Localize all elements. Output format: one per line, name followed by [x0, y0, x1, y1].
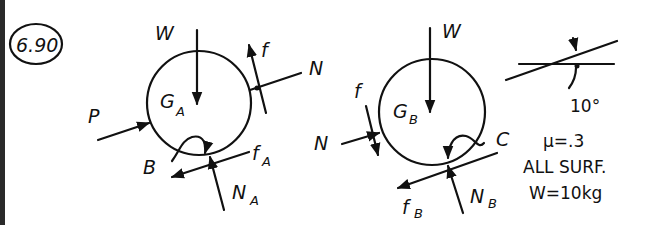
body-a-ground-normal-label: N: [232, 181, 246, 203]
body-b-center-sub: B: [409, 112, 418, 127]
weight-note: W=10kg: [529, 183, 602, 203]
body-a-ground-friction-sub: A: [261, 154, 271, 169]
diagram-canvas: 6.90 W G A P N f f A: [0, 0, 664, 225]
inclined-line: [506, 41, 617, 80]
body-a-ground-normal-sub: A: [249, 193, 259, 208]
body-b-contact-normal-label: N: [314, 132, 328, 154]
body-a-ground-friction-arrow: [172, 152, 249, 177]
body-b-moment-point-label: C: [496, 128, 510, 150]
friction-coefficient: μ=.3: [543, 131, 584, 151]
body-a-contact-normal-label: N: [309, 57, 323, 79]
body-b-ground-normal-label: N: [470, 185, 484, 207]
push-arrow-p: [98, 123, 149, 140]
body-b-center-label: G: [393, 100, 408, 122]
body-b-ground-normal-arrow: [448, 166, 463, 213]
problem-number-badge: 6.90: [10, 24, 62, 64]
body-a-ground-normal-arrow: [210, 157, 224, 210]
angle-arrow-top: [573, 38, 576, 50]
angle-arc-bottom: [569, 68, 576, 88]
angle-value: 10°: [570, 96, 600, 116]
body-b-ground-normal-sub: B: [488, 196, 497, 211]
body-a-moment-arrow: [172, 137, 206, 161]
body-a-center-label: G: [160, 90, 175, 112]
body-a-center-sub: A: [175, 104, 185, 119]
body-b-contact-friction-arrow: [366, 106, 378, 155]
problem-notes: 10° μ=.3 ALL SURF. W=10kg: [523, 96, 606, 203]
body-a-ground-friction-label: f: [252, 142, 262, 164]
body-b-ground-friction-label: f: [402, 196, 412, 218]
body-b-ground-friction-sub: B: [414, 206, 423, 221]
problem-number: 6.90: [16, 34, 58, 56]
body-a: W G A P N f f A N A B: [88, 22, 323, 210]
push-label-p: P: [88, 105, 100, 127]
angle-sketch: [506, 38, 617, 88]
free-body-diagram: 6.90 W G A P N f f A: [0, 0, 664, 225]
body-a-contact-friction-label: f: [261, 39, 271, 61]
body-b: W G B N f f B N B C: [314, 20, 510, 221]
body-b-contact-friction-label: f: [354, 80, 364, 102]
scope-note: ALL SURF.: [523, 157, 606, 177]
body-b-weight-label: W: [442, 20, 462, 42]
body-a-moment-point-label: B: [143, 156, 156, 178]
body-a-weight-label: W: [155, 22, 175, 44]
